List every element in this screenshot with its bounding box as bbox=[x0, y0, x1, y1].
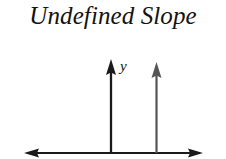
graph-plot-area: y bbox=[0, 38, 226, 159]
x-axis-left-arrowhead bbox=[24, 148, 39, 157]
page-title: Undefined Slope bbox=[0, 1, 226, 30]
x-axis-right-arrowhead bbox=[188, 148, 203, 157]
y-axis-label: y bbox=[120, 59, 127, 74]
undefined-slope-figure: Undefined Slope y bbox=[0, 0, 226, 159]
coordinate-plane-svg bbox=[0, 38, 226, 159]
